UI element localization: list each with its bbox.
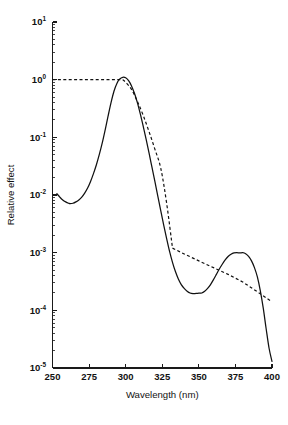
y-tick-label: 10-3 [30, 246, 47, 258]
axes-group [53, 22, 273, 368]
x-tick-label: 325 [154, 371, 171, 382]
y-tick-label: 101 [32, 15, 47, 27]
y-axis-tick-labels: 10110010-110-210-310-410-5 [30, 15, 47, 373]
x-axis-title: Wavelength (nm) [126, 389, 199, 400]
y-tick-label: 10-2 [30, 188, 47, 200]
x-tick-label: 250 [45, 371, 61, 382]
action-spectrum-solid-curve [57, 77, 272, 361]
x-axis-tick-labels: 250275300325350375400 [45, 371, 280, 382]
y-tick-label: 100 [32, 73, 47, 85]
y-tick-label: 10-1 [30, 131, 47, 143]
figure-container: 10110010-110-210-310-410-5 2502753003253… [0, 0, 288, 425]
y-tick-label: 10-4 [30, 304, 47, 316]
x-tick-label: 275 [81, 371, 98, 382]
x-tick-label: 375 [227, 371, 244, 382]
x-tick-label: 300 [118, 371, 134, 382]
x-tick-label: 400 [264, 371, 280, 382]
action-spectrum-chart: 10110010-110-210-310-410-5 2502753003253… [0, 0, 288, 425]
x-axis-major-ticks [53, 364, 273, 369]
data-curves-group [53, 77, 273, 361]
x-tick-label: 350 [191, 371, 207, 382]
y-axis-title: Relative effect [5, 164, 16, 225]
